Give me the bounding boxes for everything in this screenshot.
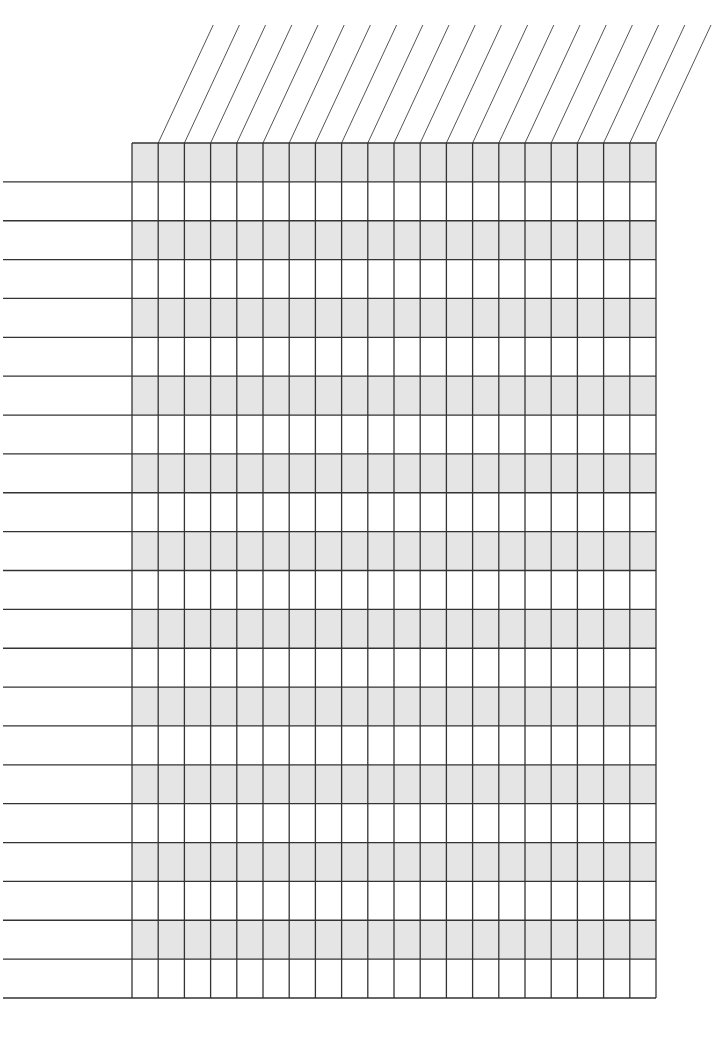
grid-cell-shaded[interactable] [394, 221, 420, 260]
grid-cell-shaded[interactable] [394, 298, 420, 337]
grid-cell[interactable] [368, 415, 394, 454]
grid-cell[interactable] [342, 337, 368, 376]
grid-cell[interactable] [604, 726, 630, 765]
grid-cell[interactable] [289, 881, 315, 920]
grid-cell[interactable] [132, 726, 158, 765]
grid-cell[interactable] [132, 571, 158, 610]
grid-cell[interactable] [473, 337, 499, 376]
grid-cell-shaded[interactable] [446, 765, 472, 804]
grid-cell[interactable] [158, 648, 184, 687]
grid-cell[interactable] [630, 337, 656, 376]
grid-cell-shaded[interactable] [342, 376, 368, 415]
grid-cell[interactable] [132, 881, 158, 920]
grid-cell[interactable] [604, 959, 630, 998]
grid-cell-shaded[interactable] [184, 920, 210, 959]
grid-cell[interactable] [158, 571, 184, 610]
grid-cell-shaded[interactable] [525, 376, 551, 415]
grid-cell[interactable] [551, 648, 577, 687]
grid-cell-shaded[interactable] [577, 609, 603, 648]
grid-cell-shaded[interactable] [315, 765, 341, 804]
grid-cell-shaded[interactable] [420, 298, 446, 337]
grid-cell[interactable] [630, 571, 656, 610]
grid-cell[interactable] [263, 415, 289, 454]
grid-cell[interactable] [132, 648, 158, 687]
grid-cell[interactable] [132, 337, 158, 376]
grid-cell-shaded[interactable] [473, 687, 499, 726]
grid-cell-shaded[interactable] [211, 376, 237, 415]
grid-cell-shaded[interactable] [446, 376, 472, 415]
grid-cell[interactable] [551, 337, 577, 376]
grid-cell-shaded[interactable] [158, 687, 184, 726]
grid-cell-shaded[interactable] [237, 221, 263, 260]
grid-cell[interactable] [342, 726, 368, 765]
grid-cell-shaded[interactable] [315, 843, 341, 882]
grid-cell[interactable] [342, 493, 368, 532]
grid-cell-shaded[interactable] [184, 454, 210, 493]
grid-cell[interactable] [237, 337, 263, 376]
grid-cell-shaded[interactable] [525, 143, 551, 182]
grid-cell-shaded[interactable] [551, 221, 577, 260]
grid-cell[interactable] [604, 493, 630, 532]
grid-cell-shaded[interactable] [315, 454, 341, 493]
grid-cell[interactable] [551, 260, 577, 299]
grid-cell-shaded[interactable] [289, 920, 315, 959]
grid-cell[interactable] [446, 881, 472, 920]
grid-cell-shaded[interactable] [630, 298, 656, 337]
grid-cell-shaded[interactable] [158, 920, 184, 959]
grid-cell[interactable] [499, 959, 525, 998]
grid-cell-shaded[interactable] [184, 298, 210, 337]
grid-cell[interactable] [158, 260, 184, 299]
grid-cell[interactable] [446, 415, 472, 454]
grid-cell-shaded[interactable] [577, 221, 603, 260]
grid-cell-shaded[interactable] [394, 532, 420, 571]
grid-cell-shaded[interactable] [604, 454, 630, 493]
grid-cell[interactable] [394, 182, 420, 221]
grid-cell[interactable] [237, 648, 263, 687]
grid-cell[interactable] [237, 804, 263, 843]
grid-cell-shaded[interactable] [577, 143, 603, 182]
grid-cell[interactable] [158, 493, 184, 532]
grid-cell[interactable] [473, 881, 499, 920]
grid-cell-shaded[interactable] [551, 609, 577, 648]
grid-cell-shaded[interactable] [263, 687, 289, 726]
grid-cell-shaded[interactable] [473, 920, 499, 959]
grid-cell[interactable] [315, 337, 341, 376]
grid-cell[interactable] [289, 959, 315, 998]
grid-cell[interactable] [499, 260, 525, 299]
grid-cell[interactable] [184, 337, 210, 376]
grid-cell[interactable] [289, 493, 315, 532]
grid-cell-shaded[interactable] [577, 454, 603, 493]
grid-cell[interactable] [420, 959, 446, 998]
grid-cell-shaded[interactable] [263, 454, 289, 493]
grid-cell-shaded[interactable] [342, 221, 368, 260]
grid-cell[interactable] [420, 182, 446, 221]
grid-cell-shaded[interactable] [577, 298, 603, 337]
grid-cell-shaded[interactable] [394, 920, 420, 959]
grid-cell-shaded[interactable] [473, 609, 499, 648]
grid-cell-shaded[interactable] [342, 843, 368, 882]
grid-cell-shaded[interactable] [473, 298, 499, 337]
grid-cell-shaded[interactable] [368, 765, 394, 804]
grid-cell-shaded[interactable] [315, 532, 341, 571]
grid-cell-shaded[interactable] [630, 454, 656, 493]
grid-cell[interactable] [525, 959, 551, 998]
grid-cell-shaded[interactable] [394, 454, 420, 493]
grid-cell[interactable] [446, 726, 472, 765]
grid-cell-shaded[interactable] [525, 920, 551, 959]
grid-cell-shaded[interactable] [237, 609, 263, 648]
grid-cell[interactable] [368, 337, 394, 376]
grid-cell[interactable] [630, 648, 656, 687]
grid-cell-shaded[interactable] [499, 454, 525, 493]
grid-cell[interactable] [211, 260, 237, 299]
grid-cell[interactable] [263, 337, 289, 376]
grid-cell[interactable] [263, 726, 289, 765]
grid-cell[interactable] [551, 415, 577, 454]
grid-cell-shaded[interactable] [604, 920, 630, 959]
grid-cell[interactable] [420, 804, 446, 843]
grid-cell[interactable] [211, 415, 237, 454]
grid-cell[interactable] [315, 415, 341, 454]
grid-cell[interactable] [342, 881, 368, 920]
grid-cell[interactable] [211, 493, 237, 532]
grid-cell-shaded[interactable] [394, 609, 420, 648]
grid-cell[interactable] [184, 804, 210, 843]
